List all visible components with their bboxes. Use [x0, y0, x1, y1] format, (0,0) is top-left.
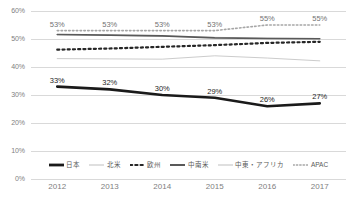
data-point-label: 32% — [102, 78, 117, 87]
data-point-label: 55% — [312, 14, 327, 23]
data-point-label: 53% — [207, 20, 222, 29]
data-point-label: 53% — [50, 20, 65, 29]
x-axis-tick-label: 2015 — [206, 182, 224, 192]
data-point-label: 53% — [155, 20, 170, 29]
y-axis-tick-label: 50% — [11, 35, 25, 43]
legend-item-label: 欧州 — [147, 161, 161, 169]
x-axis-tick-label: 2014 — [153, 182, 171, 192]
series-line — [57, 35, 320, 39]
legend-item[interactable]: 北米 — [89, 161, 121, 169]
series-line — [57, 56, 320, 61]
data-point-label: 33% — [50, 76, 65, 85]
series-line — [57, 87, 320, 107]
legend-item-label: APAC — [311, 161, 328, 169]
legend-line-swatch-icon — [130, 162, 145, 168]
x-axis-tick-label: 2013 — [101, 182, 119, 192]
data-point-label: 26% — [260, 95, 275, 104]
legend-item[interactable]: 日本 — [49, 161, 81, 169]
y-axis-tick-label: 0% — [15, 175, 25, 183]
legend-item[interactable]: 中東・アフリカ — [218, 161, 285, 169]
legend-line-swatch-icon — [89, 162, 104, 168]
legend-item-label: 北米 — [107, 161, 121, 169]
legend-item[interactable]: APAC — [293, 161, 328, 169]
y-axis-tick-label: 30% — [11, 91, 25, 99]
data-point-label: 29% — [207, 87, 222, 96]
series-line — [57, 25, 320, 31]
y-axis-tick-label: 60% — [11, 7, 25, 15]
y-axis-tick-label: 20% — [11, 119, 25, 127]
x-axis-tick-label: 2012 — [48, 182, 66, 192]
legend-item[interactable]: 中南米 — [170, 161, 209, 169]
legend-item[interactable]: 欧州 — [130, 161, 162, 169]
x-axis-tick-label: 2017 — [311, 182, 329, 192]
data-point-label: 55% — [260, 14, 275, 23]
legend-item-label: 日本 — [66, 161, 80, 169]
line-chart: 0%10%20%30%40%50%60% 33%32%30%29%26%27%5… — [0, 0, 352, 203]
x-axis-tick-label: 2016 — [258, 182, 276, 192]
legend-line-swatch-icon — [218, 162, 233, 168]
legend-line-swatch-icon — [170, 162, 185, 168]
x-axis: 201220132014201520162017 — [31, 182, 346, 196]
series-lines — [31, 11, 346, 179]
data-point-label: 53% — [102, 20, 117, 29]
legend-line-swatch-icon — [293, 162, 308, 168]
legend-item-label: 中南米 — [188, 161, 209, 169]
y-axis: 0%10%20%30%40%50%60% — [0, 11, 28, 179]
series-line — [57, 42, 320, 50]
plot-area: 33%32%30%29%26%27%53%53%53%53%55%55% — [31, 11, 346, 179]
data-point-label: 27% — [312, 92, 327, 101]
y-axis-tick-label: 40% — [11, 63, 25, 71]
legend-line-swatch-icon — [49, 162, 64, 168]
gridline — [31, 179, 346, 180]
data-point-label: 30% — [155, 84, 170, 93]
chart-legend: 日本北米欧州中南米中東・アフリカAPAC — [31, 159, 346, 171]
y-axis-tick-label: 10% — [11, 147, 25, 155]
legend-item-label: 中東・アフリカ — [235, 161, 284, 169]
